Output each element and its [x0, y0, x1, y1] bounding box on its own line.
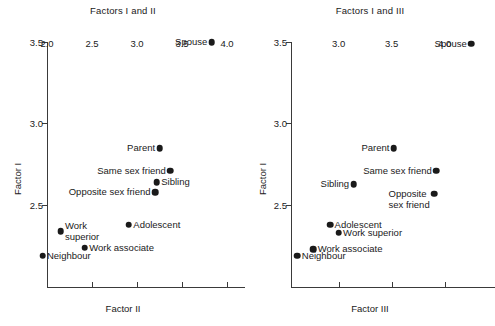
data-point-label: Worksuperior: [65, 221, 99, 242]
y-tick-label: 2.5: [274, 200, 287, 211]
x-axis-line: [47, 287, 245, 288]
panel-factors-i-and-iii: Factors I and III Factor I Factor III 3.…: [247, 0, 493, 326]
data-point-label: Work associate: [89, 242, 154, 253]
data-point: [468, 40, 475, 47]
y-tick-label: 3.0: [274, 118, 287, 129]
data-point-label: Spouse: [175, 37, 207, 48]
data-point: [156, 145, 163, 152]
x-tick-mark: [92, 282, 93, 288]
x-tick-mark: [137, 282, 138, 288]
data-point: [350, 181, 357, 188]
x-tick-label: 3.5: [385, 38, 398, 49]
y-tick-label: 3.0: [30, 118, 43, 129]
x-tick-label: 4.0: [220, 38, 233, 49]
x-tick-mark: [227, 282, 228, 288]
data-point: [57, 228, 64, 235]
data-point: [208, 39, 215, 46]
label-line-1: Work: [65, 220, 87, 231]
x-tick-mark: [445, 282, 446, 288]
y-tick-label: 2.5: [30, 200, 43, 211]
x-tick-mark: [182, 282, 183, 288]
data-point: [126, 221, 133, 228]
data-point: [431, 191, 438, 198]
y-axis-label: Factor I: [257, 163, 268, 195]
data-point-label: Same sex friend: [97, 166, 166, 177]
data-point-label: Parent: [127, 143, 155, 154]
label-line-2: sex friend: [389, 198, 430, 209]
y-axis-line: [291, 42, 292, 288]
plot-area: 3.5 3.0 2.5 2.0 2.5 3.0 3.5 4.0 Spouse P…: [47, 30, 237, 288]
data-point-label: Parent: [361, 143, 389, 154]
x-axis-label: Factor III: [247, 303, 493, 314]
data-point-label: Oppositesex friend: [389, 189, 430, 210]
data-point: [152, 189, 159, 196]
panel-factors-i-and-ii: Factors I and II Factor I Factor II 3.5 …: [0, 0, 246, 326]
data-point: [294, 252, 301, 259]
data-point: [167, 168, 174, 175]
y-tick-label: 3.5: [274, 37, 287, 48]
data-point-label: Same sex friend: [363, 166, 432, 177]
data-point: [433, 168, 440, 175]
plot-area: 3.5 3.0 2.5 3.0 3.5 4.0 Spouse Parent Sa…: [291, 30, 487, 288]
data-point-label: Opposite sex friend: [69, 187, 151, 198]
x-tick-label: 3.0: [332, 38, 345, 49]
data-point-label: Work superior: [343, 228, 402, 239]
label-line-2: superior: [65, 230, 99, 241]
x-tick-mark: [339, 282, 340, 288]
data-point-label: Adolescent: [133, 219, 180, 230]
data-point-label: Neighbour: [47, 250, 91, 261]
data-point: [391, 145, 398, 152]
data-point: [154, 179, 161, 186]
x-axis-label: Factor II: [0, 303, 246, 314]
data-point-label: Sibling: [321, 179, 350, 190]
x-tick-label: 3.0: [130, 38, 143, 49]
x-tick-label: 2.5: [85, 38, 98, 49]
y-axis-label: Factor I: [12, 163, 23, 195]
data-point-label: Neighbour: [302, 250, 346, 261]
data-point: [335, 230, 342, 237]
label-line-1: Opposite: [389, 188, 427, 199]
panel-title: Factors I and II: [0, 5, 246, 16]
data-point: [327, 221, 334, 228]
data-point-label: Spouse: [435, 38, 467, 49]
panel-title: Factors I and III: [247, 5, 493, 16]
x-tick-mark: [47, 282, 48, 288]
data-point-label: Sibling: [161, 177, 190, 188]
x-tick-label: 2.0: [40, 38, 53, 49]
x-tick-mark: [392, 282, 393, 288]
data-point: [39, 252, 46, 259]
